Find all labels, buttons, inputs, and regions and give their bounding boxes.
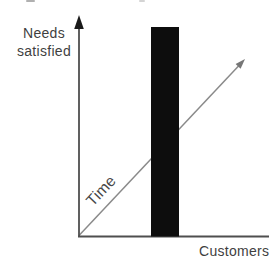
cropped-text-artifact-right <box>139 0 145 2</box>
figure-canvas: Needs satisfied Time Customers <box>0 0 277 262</box>
x-axis-label: Customers <box>199 243 269 259</box>
y-axis-label: Needs satisfied <box>10 24 78 60</box>
black-bar <box>151 27 179 237</box>
cropped-text-artifact-left <box>26 0 35 2</box>
